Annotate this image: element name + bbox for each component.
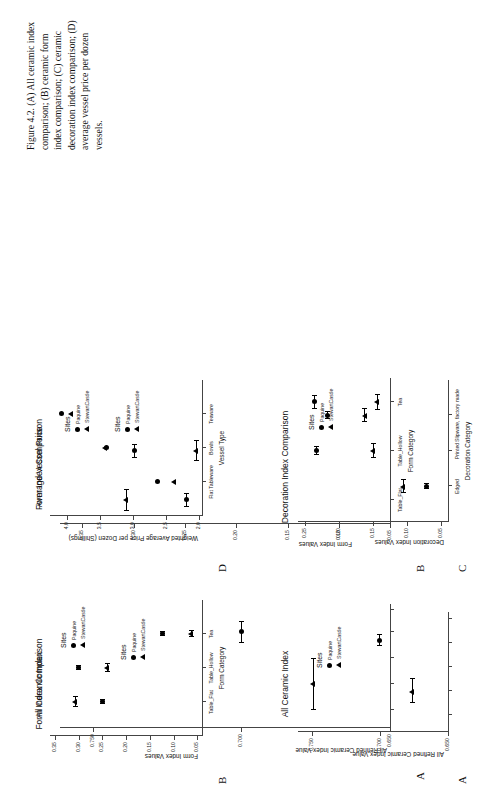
data-point-stewartcastle[interactable] (400, 484, 405, 490)
panel-b-ytick (174, 736, 175, 740)
data-point-stewartcastle[interactable] (171, 479, 176, 485)
panel-b-ytick (55, 736, 56, 740)
data-point-paquine[interactable] (155, 480, 160, 485)
panel-c-ytick (339, 522, 340, 526)
figure-page: A All Ceramic Index All Refined Ceramic … (0, 0, 498, 800)
panel-b-title: Form Index Comparison (34, 584, 44, 784)
legend-title: Sites (308, 389, 315, 430)
panel-b-ytick (126, 736, 127, 740)
panel-c-xtick (448, 415, 452, 416)
panel-a-ytick (380, 732, 381, 736)
panel-d-xlabel: Vessel Type (218, 380, 225, 516)
legend-item-stewartcastle[interactable]: StewartCastle (78, 607, 87, 648)
panel-b-ytick-label: 0.05 (193, 742, 199, 768)
panel-c-errorbar-cap (371, 457, 376, 458)
panel-a-legend: SitesPaquineStewartCastle (316, 627, 343, 668)
panel-d-ytick (100, 516, 101, 520)
panel-a-xtick (448, 618, 452, 619)
panel-c-ytick (441, 522, 442, 526)
panel-a-xtick (448, 642, 452, 643)
legend-item-stewartcastle[interactable]: StewartCastle (82, 391, 91, 432)
data-point-paquine[interactable] (424, 484, 429, 489)
panel-a-xtick (448, 666, 452, 667)
panel-c-legend: SitesPaquineStewartCastle (308, 389, 335, 430)
panel-b-ytick (197, 736, 198, 740)
data-point-paquine[interactable] (59, 412, 64, 417)
panel-c-errorbar-cap (401, 479, 406, 480)
panel-d-ytick (133, 516, 134, 520)
legend-label: StewartCastle (84, 391, 90, 423)
panel-c-xtick (448, 450, 452, 451)
legend-label: StewartCastle (328, 389, 334, 421)
data-point-stewartcastle[interactable] (72, 699, 77, 705)
legend-item-paquine[interactable]: Paquine (69, 607, 78, 648)
panel-b-ytick-label: 0.25 (98, 742, 104, 768)
panel-d-legend: SitesPaquineStewartCastle (64, 391, 91, 432)
legend-item-paquine[interactable]: Paquine (317, 389, 326, 430)
panel-a-xtick (448, 714, 452, 715)
panel-c-xtick (448, 486, 452, 487)
panel-c-errorbar-cap (362, 421, 367, 422)
panel-b-xtick-label: Tea (208, 599, 214, 669)
panel-c-errorbar-cap (401, 492, 406, 493)
panel-d-xtick (202, 413, 206, 414)
legend-label: StewartCastle (80, 607, 86, 639)
panel-d-ytick-label: 2.5 (162, 522, 168, 548)
panel-a-errorbar-cap (410, 678, 415, 679)
panel-d-ytick (67, 516, 68, 520)
panel-c-ytick-label: 0.15 (369, 528, 375, 554)
legend-title: Sites (60, 607, 67, 648)
panel-d-letter: D (216, 564, 228, 572)
panel-c-ytick-label: 0.10 (403, 528, 409, 554)
legend-title: Sites (64, 391, 71, 432)
panel-a-errorbar-cap (410, 702, 415, 703)
figure-caption: Figure 4.2. (A) All ceramic index compar… (24, 14, 106, 150)
panel-c-ytick-label: 0.05 (437, 528, 443, 554)
legend-item-stewartcastle[interactable]: StewartCastle (334, 627, 343, 668)
data-point-paquine[interactable] (377, 638, 382, 643)
legend-title: Sites (316, 627, 323, 668)
triangle-marker-icon (84, 426, 89, 432)
data-point-stewartcastle[interactable] (188, 631, 193, 637)
panel-c-ytick-label: 0.25 (301, 528, 307, 554)
panel-d-ytick-label: 3.0 (129, 522, 135, 548)
panel-c-xaxis (448, 380, 449, 522)
panel-a-yaxis (298, 731, 448, 732)
data-point-paquine[interactable] (314, 449, 319, 454)
panel-a-title: All Ceramic Index (280, 584, 290, 784)
panel-a-errorbar-cap (377, 645, 382, 646)
circle-marker-icon (327, 663, 332, 668)
panel-a: AAll Ceramic IndexAll Refined Ceramic In… (258, 584, 484, 784)
panel-c-ylabel: Decoration Index Values (375, 539, 444, 546)
panel-b-ytick (150, 736, 151, 740)
data-point-stewartcastle[interactable] (362, 413, 367, 419)
legend-label: Paquine (71, 621, 77, 640)
legend-item-stewartcastle[interactable]: StewartCastle (326, 389, 335, 430)
panel-b-ytick (79, 736, 80, 740)
panel-b-errorbar-cap (105, 671, 110, 672)
legend-label: Paquine (75, 405, 81, 424)
panel-b-legend: SitesPaquineStewartCastle (60, 607, 87, 648)
legend-item-paquine[interactable]: Paquine (73, 391, 82, 432)
panel-a-ytick-label: 0.650 (444, 738, 450, 764)
data-point-stewartcastle[interactable] (102, 445, 107, 451)
panel-b-errorbar-cap (73, 706, 78, 707)
panel-a-ytick (312, 732, 313, 736)
panel-c-ytick-label: 0.20 (335, 528, 341, 554)
panel-b-xaxis (202, 600, 203, 736)
panel-a-ytick (448, 732, 449, 736)
data-point-stewartcastle[interactable] (370, 448, 375, 454)
legend-item-paquine[interactable]: Paquine (325, 627, 334, 668)
data-point-stewartcastle[interactable] (104, 665, 109, 671)
panel-c-ytick (407, 522, 408, 526)
circle-marker-icon (75, 427, 80, 432)
data-point-stewartcastle[interactable] (409, 689, 414, 695)
panel-b-errorbar-cap (73, 696, 78, 697)
panel-c-errorbar-cap (362, 408, 367, 409)
panel-c-title: Decoration Index Comparison (280, 362, 290, 572)
panel-d-ytick (199, 516, 200, 520)
panel-b-xlabel: Form Category (218, 600, 225, 736)
panel-c-ytick (305, 522, 306, 526)
panel-c-letter: C (456, 564, 468, 572)
panel-d-xaxis (202, 380, 203, 516)
